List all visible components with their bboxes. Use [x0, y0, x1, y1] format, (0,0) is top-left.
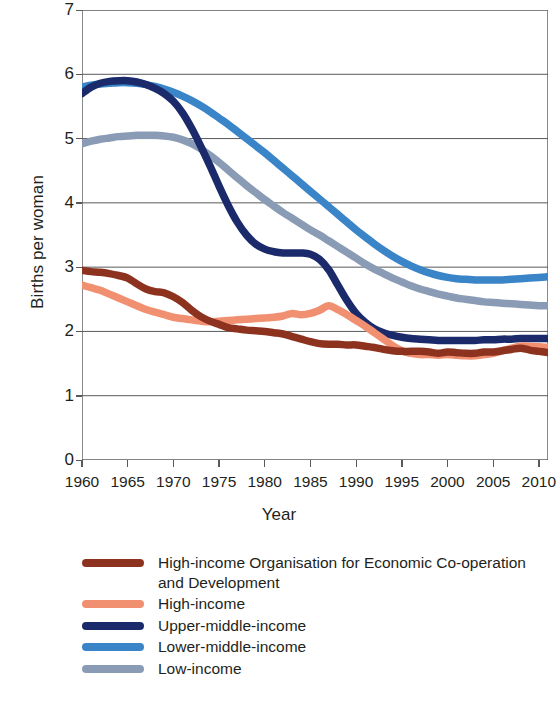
x-axis-tick-mark	[264, 460, 265, 467]
series-line	[82, 83, 548, 280]
plot-area	[82, 10, 548, 460]
x-axis-tick-label: 1980	[247, 474, 281, 490]
y-axis-tick-label: 7	[38, 1, 74, 18]
x-axis-tick-label: 1965	[110, 474, 144, 490]
legend-color-swatch	[82, 622, 144, 630]
legend-item: Lower-middle-income	[82, 637, 552, 657]
x-axis-tick-label: 2005	[476, 474, 510, 490]
y-axis-tick-label: 3	[38, 258, 74, 275]
fertility-rate-line-chart: Births per woman 01234567 19601965197019…	[0, 0, 558, 709]
chart-legend: High-income Organisation for Economic Co…	[82, 553, 552, 680]
x-axis-tick-label: 1990	[339, 474, 373, 490]
x-axis-tick-label: 1970	[156, 474, 190, 490]
legend-item: Low-income	[82, 659, 552, 679]
y-axis-tick-label: 5	[38, 130, 74, 147]
x-axis-tick-mark	[127, 460, 128, 467]
y-axis-tick-label: 0	[38, 451, 74, 468]
legend-label: High-income Organisation for Economic Co…	[158, 553, 528, 592]
y-axis-tick-label: 1	[38, 387, 74, 404]
legend-label: Low-income	[158, 659, 242, 679]
x-axis-tick-label: 2010	[522, 474, 556, 490]
legend-label: Lower-middle-income	[158, 637, 306, 657]
x-axis-tick-label: 1975	[202, 474, 236, 490]
x-axis-tick-mark	[447, 460, 448, 467]
legend-label: Upper-middle-income	[158, 616, 306, 636]
x-axis-tick-mark	[310, 460, 311, 467]
x-axis-tick-label: 2000	[430, 474, 464, 490]
legend-item: High-income Organisation for Economic Co…	[82, 553, 552, 592]
x-axis-tick-label: 1960	[65, 474, 99, 490]
x-axis-title: Year	[0, 505, 558, 525]
x-axis-tick-label: 1985	[293, 474, 327, 490]
legend-color-swatch	[82, 643, 144, 651]
y-axis-tick-label: 6	[38, 65, 74, 82]
x-axis-tick-mark	[401, 460, 402, 467]
x-axis-tick-mark	[81, 460, 82, 467]
x-axis-tick-mark	[218, 460, 219, 467]
x-axis-tick-mark	[493, 460, 494, 467]
y-axis-tick-label: 2	[38, 322, 74, 339]
legend-item: High-income	[82, 594, 552, 614]
y-axis-tick-label: 4	[38, 194, 74, 211]
x-axis-tick-mark	[538, 460, 539, 467]
x-axis-tick-label: 1995	[385, 474, 419, 490]
legend-color-swatch	[82, 600, 144, 608]
legend-color-swatch	[82, 559, 144, 567]
legend-label: High-income	[158, 594, 245, 614]
x-axis-tick-mark	[356, 460, 357, 467]
x-axis-tick-mark	[173, 460, 174, 467]
legend-item: Upper-middle-income	[82, 616, 552, 636]
legend-color-swatch	[82, 665, 144, 673]
plot-svg	[82, 10, 548, 460]
